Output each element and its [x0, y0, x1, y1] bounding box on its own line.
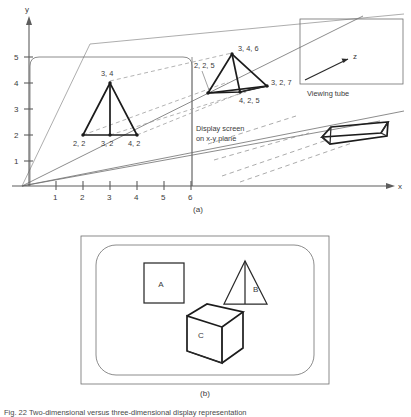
- triangle-2d: 3, 4 2, 2 3, 2 4, 2: [73, 69, 140, 148]
- x-tick-1: 1: [53, 193, 58, 202]
- y-tick-3: 3: [14, 105, 19, 114]
- triangle-2d-bottom-left-label: 2, 2: [73, 139, 85, 148]
- y-tick-5: 5: [14, 53, 19, 62]
- figure-caption: Fig. 22 Two-dimensional versus three-dim…: [4, 408, 247, 417]
- panel-b: A B C (b): [81, 236, 329, 398]
- x-tick-2: 2: [80, 193, 85, 202]
- tetrahedron-front-label: 4, 2, 5: [239, 96, 260, 105]
- shape-square-a: A: [144, 263, 184, 303]
- panel-a: z Viewing tube Display screen on x-y pla…: [12, 5, 404, 214]
- triangle-2d-bottom-right-label: 4, 2: [128, 139, 140, 148]
- y-tick-1: 1: [14, 157, 19, 166]
- tetrahedron-apex-label: 3, 4, 6: [238, 44, 259, 53]
- x-axis-label: x: [398, 182, 402, 191]
- shape-c-label: C: [198, 331, 204, 340]
- panel-a-caption: (a): [193, 205, 203, 214]
- x-tick-4: 4: [134, 193, 139, 202]
- viewing-tube-label: Viewing tube: [307, 89, 349, 98]
- triangle-2d-bottom-mid-label: 3, 2: [101, 139, 113, 148]
- x-tick-3: 3: [107, 193, 112, 202]
- z-axis: z: [305, 52, 357, 80]
- x-axis: x 1 2 3 4 5 6: [12, 181, 402, 202]
- panel-b-caption: (b): [200, 389, 210, 398]
- triangle-2d-apex-label: 3, 4: [101, 69, 113, 78]
- projection-rays: [83, 53, 352, 182]
- y-tick-2: 2: [14, 131, 19, 140]
- display-screen-label-line1: Display screen: [196, 124, 244, 133]
- tetrahedron-left-label: 2, 2, 5: [194, 61, 215, 70]
- x-tick-6: 6: [188, 193, 193, 202]
- y-axis-label: y: [25, 5, 29, 14]
- viewing-tube-envelope: [22, 14, 404, 186]
- shape-a-label: A: [158, 280, 164, 289]
- y-tick-4: 4: [14, 79, 19, 88]
- shape-triangle-b: B: [224, 261, 267, 304]
- shape-cube-c: C: [187, 304, 243, 363]
- figure-root: z Viewing tube Display screen on x-y pla…: [0, 0, 411, 417]
- shape-b-label: B: [253, 285, 258, 294]
- tetrahedron-3d: 3, 4, 6 2, 2, 5 3, 2, 7 4, 2, 5: [194, 44, 292, 105]
- tetrahedron-right-label: 3, 2, 7: [271, 78, 292, 87]
- x-tick-5: 5: [161, 193, 166, 202]
- z-axis-label: z: [353, 52, 357, 61]
